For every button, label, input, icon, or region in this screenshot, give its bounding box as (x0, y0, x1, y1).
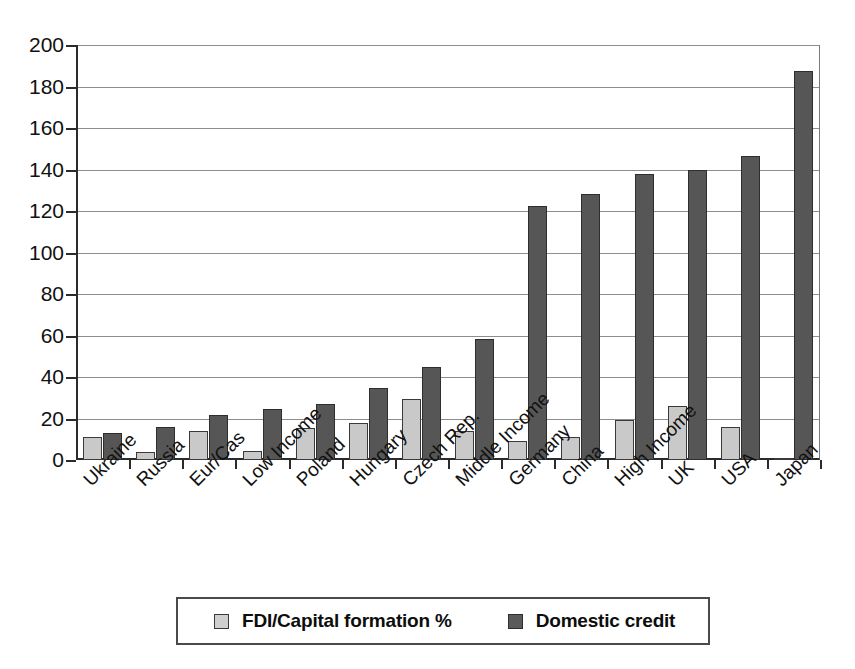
y-tick-label: 80 (41, 283, 64, 304)
legend-label-domestic-credit: Domestic credit (536, 610, 676, 632)
x-tick-mark (554, 460, 556, 469)
x-tick-mark (607, 460, 609, 469)
chart-legend: FDI/Capital formation % Domestic credit (176, 597, 710, 645)
y-tick-mark (66, 128, 76, 130)
x-tick-mark (289, 460, 291, 469)
bar-fdi (402, 399, 421, 460)
y-tick-mark (66, 336, 76, 338)
x-tick-mark (661, 460, 663, 469)
y-tick-mark (66, 419, 76, 421)
y-tick-mark (66, 170, 76, 172)
legend-label-fdi: FDI/Capital formation % (242, 610, 452, 632)
x-axis-label: UK (665, 457, 697, 489)
y-tick-mark (66, 377, 76, 379)
bar-domestic-credit (635, 174, 654, 460)
y-tick-mark (66, 45, 76, 47)
legend-swatch-icon-domestic-credit (508, 614, 523, 629)
y-tick-label: 20 (41, 408, 64, 429)
legend-swatch-icon-fdi (214, 614, 229, 629)
x-tick-mark (235, 460, 237, 469)
y-tick-label: 40 (41, 366, 64, 387)
y-tick-mark (66, 294, 76, 296)
y-tick-label: 120 (29, 200, 64, 221)
y-tick-mark (66, 253, 76, 255)
x-tick-mark (714, 460, 716, 469)
x-tick-mark (342, 460, 344, 469)
y-tick-mark (66, 211, 76, 213)
x-tick-mark (820, 460, 822, 469)
y-tick-label: 60 (41, 325, 64, 346)
y-tick-label: 180 (29, 76, 64, 97)
bar-chart: 020406080100120140160180200 UkraineRussi… (0, 0, 855, 669)
x-tick-mark (448, 460, 450, 469)
y-tick-label: 200 (29, 34, 64, 55)
y-tick-label: 100 (29, 242, 64, 263)
legend-entry-domestic-credit: Domestic credit (508, 610, 676, 632)
legend-entry-fdi: FDI/Capital formation % (214, 610, 452, 632)
y-tick-mark (66, 460, 76, 462)
y-tick-label: 160 (29, 117, 64, 138)
x-tick-mark (501, 460, 503, 469)
bar-domestic-credit (581, 194, 600, 460)
x-tick-mark (395, 460, 397, 469)
bar-domestic-credit (741, 156, 760, 460)
x-tick-mark (182, 460, 184, 469)
bars-layer (76, 45, 820, 460)
x-tick-mark (767, 460, 769, 469)
x-tick-mark (129, 460, 131, 469)
bar-domestic-credit (794, 71, 813, 460)
y-tick-mark (66, 87, 76, 89)
y-tick-label: 0 (52, 449, 64, 470)
y-tick-label: 140 (29, 159, 64, 180)
